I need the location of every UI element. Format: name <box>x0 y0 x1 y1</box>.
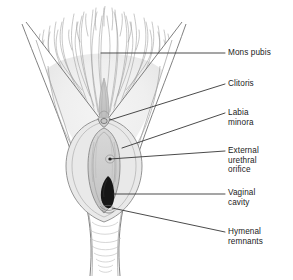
label-line: minora <box>228 118 254 128</box>
label-line: Mons pubis <box>228 48 271 58</box>
label-line: urethral <box>228 156 259 166</box>
perineum-arcs <box>89 222 121 272</box>
label-hymenal-remnants: Hymenalremnants <box>228 227 263 246</box>
label-line: External <box>228 146 259 156</box>
label-mons-pubis: Mons pubis <box>228 48 271 58</box>
label-line: Clitoris <box>228 79 254 89</box>
illustration-page: Mons pubisClitorisLabiaminoraExternalure… <box>0 0 293 280</box>
label-external-urethral-orifice: Externalurethralorifice <box>228 146 259 175</box>
label-line: Labia <box>228 108 254 118</box>
label-line: Vaginal <box>228 188 255 198</box>
label-clitoris: Clitoris <box>228 79 254 89</box>
label-vaginal-cavity: Vaginalcavity <box>228 188 255 207</box>
label-labia-minora: Labiaminora <box>228 108 254 127</box>
label-line: remnants <box>228 237 263 247</box>
leader-line-hymenal-remnants <box>112 208 225 232</box>
label-line: orifice <box>228 165 259 175</box>
label-line: cavity <box>228 198 255 208</box>
label-line: Hymenal <box>228 227 263 237</box>
